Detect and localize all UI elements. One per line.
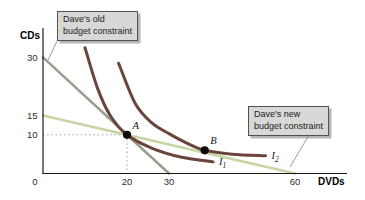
x-tick-label: 30 — [164, 176, 175, 187]
point-dot-A — [123, 131, 131, 139]
callout-old-line1: Dave's old — [63, 14, 132, 26]
callout-old-line2: budget constraint — [63, 26, 132, 38]
y-tick-label: 15 — [27, 110, 38, 121]
y-axis-title: CDs — [20, 30, 40, 41]
callout-new-budget: Dave's new budget constraint — [248, 106, 329, 136]
callout-old-leader-line — [48, 39, 58, 60]
point-dot-B — [201, 146, 209, 154]
y-tick-label: 10 — [27, 129, 38, 140]
x-axis-title: DVDs — [318, 176, 345, 187]
callout-new-leader-line — [290, 135, 309, 167]
x-tick-label: 20 — [122, 176, 133, 187]
point-label-B: B — [210, 135, 217, 146]
curve-label-subscript: 1 — [223, 161, 227, 170]
point-label-A: A — [132, 120, 140, 131]
callout-new-line2: budget constraint — [254, 121, 323, 133]
budget-constraint-figure: I1I2 AB 0203060301510 CDs DVDs Dave's ol… — [0, 0, 365, 200]
y-tick-label: 30 — [27, 52, 38, 63]
x-tick-label: 0 — [32, 176, 37, 187]
callout-new-line1: Dave's new — [254, 109, 323, 121]
x-tick-label: 60 — [290, 176, 301, 187]
curve-label-subscript: 2 — [275, 155, 279, 164]
series-budget-line-Dave's old budget constraint — [43, 57, 169, 173]
indifference-curve-label: I2 — [271, 150, 280, 164]
callout-old-budget: Dave's old budget constraint — [57, 11, 138, 41]
